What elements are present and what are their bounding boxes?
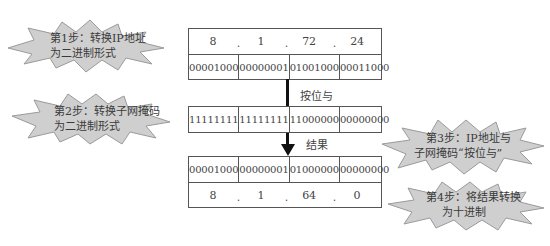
step1-line1: 第1步：转换IP地址 [50, 31, 146, 46]
result-decimal-octet-3: 64. [285, 183, 333, 207]
ip-binary-octet-4: 00011000 [339, 55, 389, 79]
mask-binary-octet-4: 00000000 [339, 107, 389, 132]
step3-line2: 子网掩码“按位与” [414, 146, 511, 161]
mask-binary-octet-1: 11111111 [189, 107, 238, 132]
step1-callout: 第1步：转换IP地址 为二进制形式 [6, 18, 166, 74]
result-binary-row: 00001000 00000001 01000000 00000000 [189, 157, 381, 182]
ip-binary-octet-3: 01001000 [289, 55, 339, 79]
step3-line1: 第3步：IP地址与 [414, 131, 511, 146]
step1-line2: 为二进制形式 [50, 46, 146, 61]
step2-line1: 第2步：转换子网掩码 [54, 104, 160, 119]
ip-decimal-octet-3: 72. [285, 29, 333, 54]
ip-binary-octet-2: 00000001 [238, 55, 288, 79]
result-decimal-octet-4: 0 [333, 183, 381, 207]
result-decimal-octet-1: 8. [189, 183, 237, 207]
subnet-mask-table: 11111111 11111111 11000000 00000000 [188, 106, 382, 133]
step4-callout: 第4步：将结果转换 为十进制 [386, 180, 546, 232]
ip-decimal-octet-2: 1. [237, 29, 285, 54]
result-decimal-octet-2: 1. [237, 183, 285, 207]
step3-callout: 第3步：IP地址与 子网掩码“按位与” [380, 118, 546, 176]
arrow-down-icon [281, 144, 295, 156]
step2-line2: 为二进制形式 [54, 119, 160, 134]
step4-line1: 第4步：将结果转换 [426, 190, 521, 205]
result-binary-octet-4: 00000000 [339, 157, 389, 182]
result-decimal-row: 8. 1. 64. 0 [189, 182, 381, 207]
ip-decimal-row: 8. 1. 72. 24 [189, 29, 381, 54]
mask-binary-octet-3: 11000000 [289, 107, 339, 132]
operation-label: 按位与 [300, 87, 333, 103]
result-binary-octet-3: 01000000 [289, 157, 339, 182]
ip-binary-row: 00001000 00000001 01001000 00011000 [189, 54, 381, 79]
result-binary-octet-2: 00000001 [238, 157, 288, 182]
ip-address-table: 8. 1. 72. 24 00001000 00000001 01001000 … [188, 28, 382, 80]
result-binary-octet-1: 00001000 [189, 157, 238, 182]
mask-binary-row: 11111111 11111111 11000000 00000000 [189, 107, 381, 132]
result-table: 00001000 00000001 01000000 00000000 8. 1… [188, 156, 382, 208]
mask-binary-octet-2: 11111111 [238, 107, 288, 132]
ip-binary-octet-1: 00001000 [189, 55, 238, 79]
step4-line2: 为十进制 [426, 205, 521, 220]
ip-decimal-octet-1: 8. [189, 29, 237, 54]
ip-decimal-octet-4: 24 [333, 29, 381, 54]
step2-callout: 第2步：转换子网掩码 为二进制形式 [10, 92, 172, 146]
result-label: 结果 [306, 136, 328, 152]
